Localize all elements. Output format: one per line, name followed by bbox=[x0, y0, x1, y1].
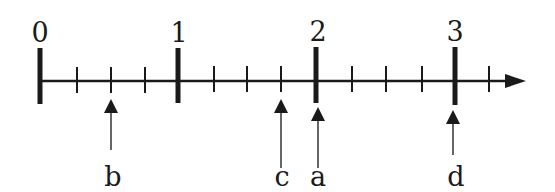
major-label-1: 1 bbox=[170, 17, 187, 48]
major-label-2: 2 bbox=[309, 16, 326, 47]
point-label-b: b bbox=[104, 161, 121, 192]
point-label-d: d bbox=[447, 161, 464, 192]
point-marker-a: a bbox=[310, 107, 326, 192]
major-label-0: 0 bbox=[31, 17, 48, 48]
point-label-a: a bbox=[310, 161, 326, 192]
point-label-c: c bbox=[274, 161, 289, 192]
major-label-3: 3 bbox=[446, 16, 463, 47]
up-arrow-icon bbox=[104, 99, 118, 113]
axis-arrowhead-icon bbox=[505, 74, 526, 88]
up-arrow-icon bbox=[274, 99, 288, 113]
number-line-diagram: 0 1 2 3 b c a d bbox=[0, 0, 555, 192]
point-marker-d: d bbox=[446, 110, 465, 192]
up-arrow-icon bbox=[311, 107, 325, 121]
point-marker-c: c bbox=[274, 99, 290, 192]
point-marker-b: b bbox=[104, 99, 122, 192]
minor-ticks bbox=[77, 66, 489, 93]
up-arrow-icon bbox=[446, 110, 460, 124]
